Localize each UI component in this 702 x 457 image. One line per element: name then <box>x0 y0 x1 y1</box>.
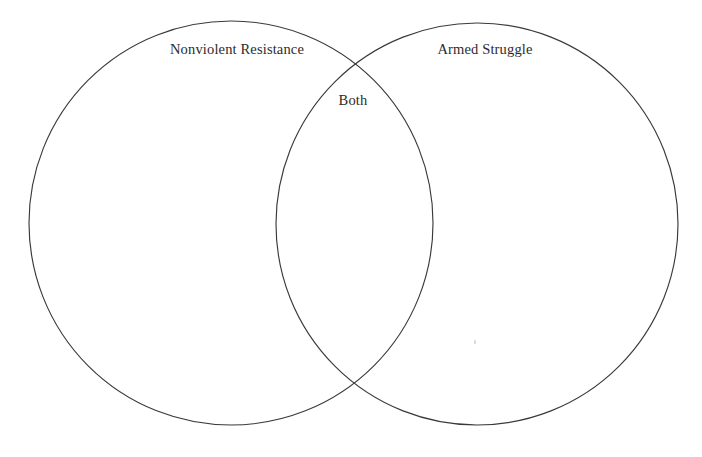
venn-diagram-graphic <box>0 0 702 457</box>
venn-diagram-canvas: Nonviolent Resistance Armed Struggle Bot… <box>0 0 702 457</box>
venn-label-left-set: Nonviolent Resistance <box>170 42 304 57</box>
scan-speck-artifact <box>474 340 476 344</box>
venn-circle-right[interactable] <box>276 23 678 425</box>
venn-circle-left[interactable] <box>29 21 433 425</box>
venn-label-intersection: Both <box>339 93 368 108</box>
venn-label-right-set: Armed Struggle <box>437 42 532 57</box>
